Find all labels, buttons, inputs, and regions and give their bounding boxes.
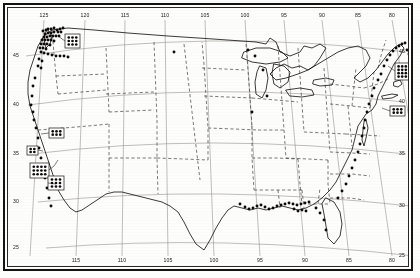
new-york-bight-inset [390, 106, 405, 116]
central-california-inset [30, 163, 49, 178]
occurrence-dot [348, 175, 351, 178]
southern-california-inset [48, 176, 64, 190]
inset-occurrence-dot [396, 108, 399, 111]
occurrence-dot [40, 157, 43, 160]
occurrence-dot [50, 28, 53, 31]
occurrence-dot [30, 104, 33, 107]
inset-occurrence-dot [71, 36, 74, 39]
occurrence-dot [48, 197, 51, 200]
inset-occurrence-dot [51, 133, 54, 136]
occurrence-dot [52, 35, 55, 38]
occurrence-dot [389, 54, 392, 57]
inset-occurrence-dot [44, 165, 47, 168]
lon-bot-80: 80 [389, 258, 395, 263]
occurrence-dot [33, 119, 36, 122]
occurrence-dot [380, 73, 383, 76]
inset-occurrence-dot [59, 185, 62, 188]
inset-occurrence-dot [404, 72, 407, 75]
occurrence-dot [49, 35, 52, 38]
map-plot-area [8, 8, 408, 266]
occurrence-dot [51, 54, 54, 57]
occurrence-dot [42, 47, 45, 50]
inset-occurrence-dot [51, 185, 54, 188]
lon-top-100: 100 [241, 13, 250, 18]
lat-l-40: 40 [13, 102, 19, 107]
occurrence-dot [359, 143, 362, 146]
occurrence-dot [296, 204, 299, 207]
occurrence-dot [62, 27, 65, 30]
inset-occurrence-dot [55, 185, 58, 188]
occurrence-dot [406, 49, 408, 52]
occurrence-dot [366, 111, 369, 114]
occurrence-dot [31, 95, 34, 98]
lon-bot-105: 105 [164, 258, 173, 263]
occurrence-dot [300, 203, 303, 206]
occurrence-dot [345, 183, 348, 186]
occurrence-dot [46, 43, 49, 46]
inset-occurrence-dot [59, 130, 62, 133]
occurrence-dot [40, 43, 43, 46]
inset-occurrence-dot [75, 43, 78, 46]
occurrence-dot [53, 40, 56, 43]
occurrence-dot [173, 51, 176, 54]
inset-occurrence-dot [59, 133, 62, 136]
inset-occurrence-dot [36, 169, 39, 172]
occurrence-dot [361, 135, 364, 138]
occurrence-dot [47, 53, 50, 56]
occurrence-dot [47, 28, 50, 31]
occurrence-dot [305, 210, 308, 213]
occurrence-dot [301, 209, 304, 212]
occurrence-dot [319, 212, 322, 215]
occurrence-dot [38, 58, 41, 61]
occurrence-dot [288, 202, 291, 205]
occurrence-dot [401, 43, 404, 46]
occurrence-dot [49, 44, 52, 47]
inset-occurrence-dot [40, 165, 43, 168]
occurrence-dot [383, 65, 386, 68]
inset-occurrence-dot [44, 173, 47, 176]
inset-occurrence-dot [404, 68, 407, 71]
inset-occurrence-dot [401, 65, 404, 68]
occurrence-dot [341, 190, 344, 193]
occurrence-dot [395, 47, 398, 50]
cape-cod [394, 80, 402, 87]
occurrence-dot [351, 167, 354, 170]
occurrence-dot [252, 207, 255, 210]
inset-occurrence-dot [397, 75, 400, 78]
inset-occurrence-dot [401, 72, 404, 75]
inset-occurrence-dot [55, 133, 58, 136]
occurrence-dot [50, 39, 53, 42]
occurrence-dot [53, 31, 56, 34]
occurrence-dot [371, 95, 374, 98]
lat-r-25: 25 [399, 253, 405, 258]
occurrence-dot [280, 204, 283, 207]
inset-occurrence-dot [396, 111, 399, 114]
lon-top-95: 95 [281, 13, 287, 18]
inset-occurrence-dot [32, 165, 35, 168]
occurrence-dot [55, 35, 58, 38]
occurrence-dot [293, 208, 296, 211]
lon-top-110: 110 [161, 13, 170, 18]
occurrence-dot [40, 67, 43, 70]
inset-occurrence-dot [75, 36, 78, 39]
inset-occurrence-dot [59, 178, 62, 181]
occurrence-dot [63, 55, 66, 58]
inset-occurrence-dot [33, 148, 36, 151]
inset-occurrence-dot [36, 173, 39, 176]
inset-occurrence-dot [55, 178, 58, 181]
inset-occurrence-dot [67, 40, 70, 43]
occurrence-dot [260, 204, 263, 207]
occurrence-dot [43, 52, 46, 55]
inset-occurrence-dot [401, 68, 404, 71]
occurrence-dot [398, 45, 401, 48]
occurrence-dot [325, 229, 328, 232]
occurrence-dot [256, 205, 259, 208]
lon-bot-115: 115 [72, 258, 81, 263]
occurrence-dot [364, 119, 367, 122]
occurrence-dot [363, 127, 366, 130]
distribution-map-figure: 125120115110105100959085807570 115110105… [0, 0, 420, 278]
occurrence-dot [43, 36, 46, 39]
inset-occurrence-dot [67, 43, 70, 46]
inset-occurrence-dot [71, 43, 74, 46]
long-island [382, 94, 398, 99]
